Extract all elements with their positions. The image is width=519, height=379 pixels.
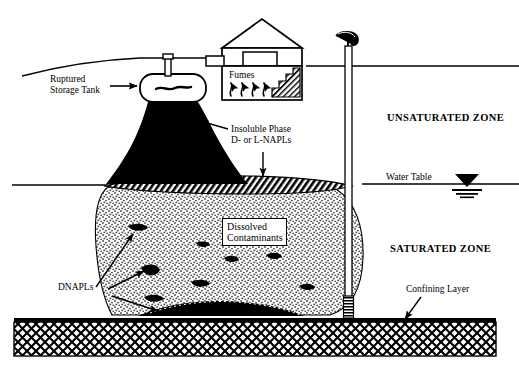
napl-plume [106, 94, 248, 184]
leader-confining-layer [405, 297, 421, 319]
well-screen [344, 296, 354, 318]
label-dissolved-contaminants: Dissolved Contaminants [222, 218, 287, 246]
tank-vent-pipe [163, 54, 173, 76]
confining-layer [14, 318, 496, 356]
label-dnapls: DNAPLs [58, 282, 93, 293]
service-pipe [206, 56, 224, 66]
label-unsaturated-zone: UNSATURATED ZONE [387, 112, 504, 124]
label-water-table: Water Table [386, 172, 432, 183]
diagram-svg [0, 0, 519, 379]
dissolved-plume [95, 186, 363, 315]
water-table-symbol [452, 174, 482, 198]
label-saturated-zone: SATURATED ZONE [390, 243, 491, 255]
label-confining-layer: Confining Layer [406, 284, 469, 295]
label-fumes: Fumes [229, 70, 254, 81]
label-ruptured-storage-tank: Ruptured Storage Tank [50, 74, 100, 95]
diagram-canvas: Ruptured Storage Tank Fumes Insoluble Ph… [0, 0, 519, 379]
label-insoluble-phase: Insoluble Phase D- or L-NAPLs [231, 124, 291, 145]
storage-tank [140, 74, 206, 102]
